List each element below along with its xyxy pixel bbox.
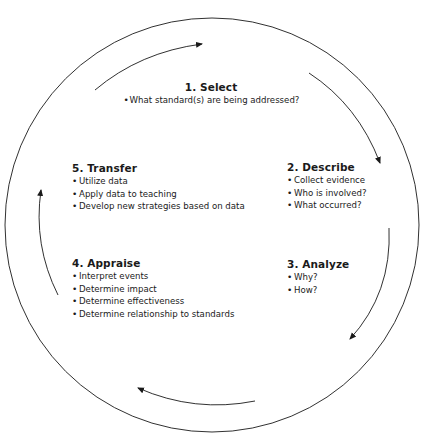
step-title: 5. Transfer xyxy=(72,162,245,174)
cycle-diagram-graphic xyxy=(0,0,422,442)
arrow-to-analyze xyxy=(350,228,389,339)
step-items: Collect evidence Who is involved? What o… xyxy=(287,174,367,212)
step-item: Utilize data xyxy=(72,175,245,188)
step-item: How? xyxy=(287,284,349,297)
step-appraise: 4. Appraise Interpret events Determine i… xyxy=(72,257,234,320)
step-select: 1. Select What standard(s) are being add… xyxy=(0,81,422,107)
step-item: Determine impact xyxy=(72,283,234,296)
step-item: What occurred? xyxy=(287,199,367,212)
step-items: Utilize data Apply data to teaching Deve… xyxy=(72,175,245,213)
step-items: Why? How? xyxy=(287,271,349,296)
step-item: Why? xyxy=(287,271,349,284)
step-transfer: 5. Transfer Utilize data Apply data to t… xyxy=(72,162,245,213)
step-item: Apply data to teaching xyxy=(72,188,245,201)
step-item: Collect evidence xyxy=(287,174,367,187)
arrow-to-transfer xyxy=(39,190,58,295)
step-title: 4. Appraise xyxy=(72,257,234,269)
arrow-to-appraise xyxy=(138,388,255,405)
step-item: Determine effectiveness xyxy=(72,295,234,308)
step-item: Determine relationship to standards xyxy=(72,308,234,321)
step-item: What standard(s) are being addressed? xyxy=(0,94,422,107)
step-title: 2. Describe xyxy=(287,161,367,173)
step-item: Develop new strategies based on data xyxy=(72,200,245,213)
step-analyze: 3. Analyze Why? How? xyxy=(287,258,349,296)
step-items: What standard(s) are being addressed? xyxy=(0,94,422,107)
step-items: Interpret events Determine impact Determ… xyxy=(72,270,234,320)
step-item: Interpret events xyxy=(72,270,234,283)
step-title: 3. Analyze xyxy=(287,258,349,270)
step-title: 1. Select xyxy=(0,81,422,93)
step-item: Who is involved? xyxy=(287,187,367,200)
step-describe: 2. Describe Collect evidence Who is invo… xyxy=(287,161,367,212)
